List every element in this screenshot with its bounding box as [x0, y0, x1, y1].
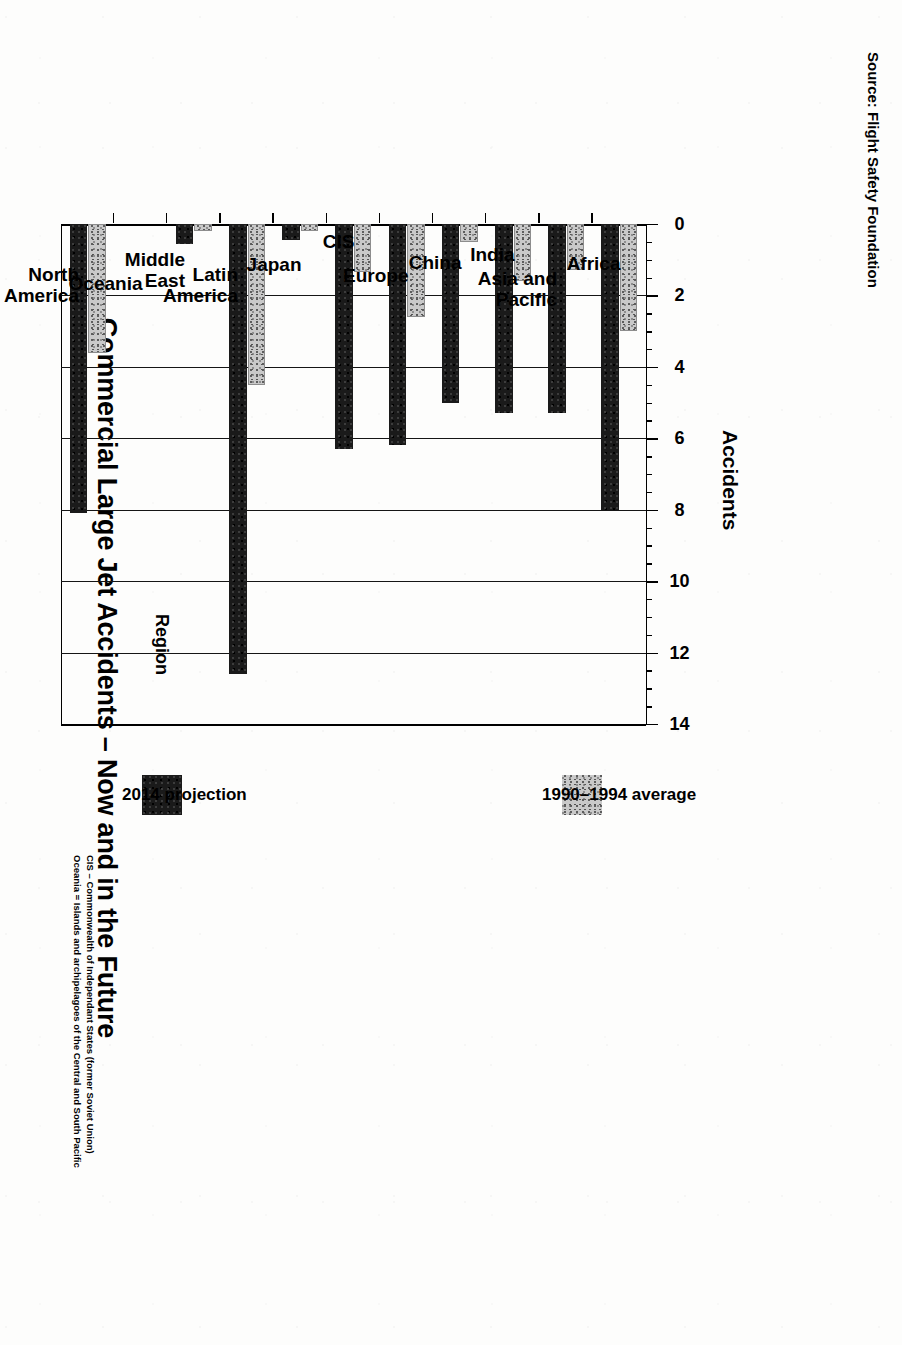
- category-separator-7: [272, 213, 273, 223]
- footnote-2: Oceania = Islands and archipelagoes of t…: [71, 855, 84, 1168]
- category-label-africa: Africa: [567, 253, 621, 274]
- axis-tick-6: [646, 438, 658, 439]
- axis-tick-11: [646, 617, 652, 618]
- axis-tick-5: [646, 403, 652, 404]
- gridline-14: [61, 724, 646, 726]
- axis-tick-9.5: [646, 563, 652, 564]
- axis-tick-label-8: 8: [666, 499, 694, 520]
- axis-tick-14: [646, 724, 658, 725]
- axis-tick-label-14: 14: [666, 714, 694, 735]
- bar-1990-1994-latin-america: [248, 224, 266, 385]
- category-separator-1: [591, 213, 592, 223]
- category-separator-10: [113, 213, 114, 223]
- axis-tick-13: [646, 688, 652, 689]
- gridline-8: [61, 510, 646, 511]
- category-separator-6: [326, 213, 327, 223]
- axis-tick-label-0: 0: [666, 214, 694, 235]
- footnote-block: CIS – Commonwealth of Independant States…: [71, 855, 97, 1168]
- category-label-asia-and-pacific: Asia andPacific: [478, 268, 557, 310]
- axis-tick-label-4: 4: [666, 356, 694, 377]
- axis-tick-10: [646, 581, 658, 582]
- axis-tick-4: [646, 367, 658, 368]
- bar-2014-japan: [282, 224, 300, 240]
- category-separator-9: [166, 213, 167, 223]
- category-separator-2: [538, 213, 539, 223]
- gridline-6: [61, 438, 646, 439]
- axis-tick-11.5: [646, 635, 652, 636]
- category-label-china: China: [409, 252, 462, 273]
- axis-tick-1: [646, 260, 652, 261]
- axis-tick-3.5: [646, 349, 652, 350]
- category-separator-3: [485, 213, 486, 223]
- bar-1990-1994-middle-east: [194, 224, 212, 231]
- axis-tick-2: [646, 295, 658, 296]
- bar-1990-1994-china: [460, 224, 478, 242]
- axis-tick-label-2: 2: [666, 285, 694, 306]
- axis-tick-5.5: [646, 420, 652, 421]
- legend-label-1: 1990–1994 average: [542, 785, 696, 805]
- category-separator-5: [379, 213, 380, 223]
- axis-tick-label-6: 6: [666, 428, 694, 449]
- value-axis-ruler: [646, 224, 658, 724]
- category-label-north-america: NorthAmerica: [4, 264, 79, 306]
- axis-tick-6.5: [646, 456, 652, 457]
- axis-tick-4.5: [646, 385, 652, 386]
- axis-tick-13.5: [646, 706, 652, 707]
- axis-tick-7.5: [646, 492, 652, 493]
- axis-tick-3: [646, 331, 652, 332]
- bar-2014-china: [442, 224, 460, 403]
- axis-tick-0: [646, 224, 658, 225]
- axis-tick-label-10: 10: [666, 571, 694, 592]
- category-label-oceania: Oceania: [68, 273, 142, 294]
- axis-tick-10.5: [646, 599, 652, 600]
- axis-tick-0.5: [646, 242, 652, 243]
- source-note: Source: Flight Safety Foundation: [865, 52, 882, 288]
- bar-2014-middle-east: [176, 224, 194, 244]
- bar-1990-1994-japan: [301, 224, 319, 231]
- gridline-10: [61, 581, 646, 582]
- axis-tick-2.5: [646, 313, 652, 314]
- category-separator-4: [432, 213, 433, 223]
- axis-tick-8: [646, 510, 658, 511]
- rotated-figure-canvas: Source: Flight Safety Foundation Commerc…: [0, 0, 902, 1345]
- axis-tick-9: [646, 545, 652, 546]
- axis-tick-12: [646, 653, 658, 654]
- category-label-cis: CIS: [323, 231, 355, 252]
- axis-tick-8.5: [646, 528, 652, 529]
- bar-2014-cis: [336, 224, 354, 449]
- axis-tick-12.5: [646, 670, 652, 671]
- axis-tick-label-12: 12: [666, 642, 694, 663]
- category-label-japan: Japan: [247, 254, 302, 275]
- plot-area: [61, 224, 646, 724]
- category-separator-8: [219, 213, 220, 223]
- bar-1990-1994-africa: [620, 224, 638, 331]
- bar-2014-asia-and-pacific: [548, 224, 566, 413]
- footnote-1: CIS – Commonwealth of Independant States…: [84, 855, 97, 1168]
- category-label-india: India: [470, 244, 514, 265]
- axis-tick-1.5: [646, 278, 652, 279]
- bar-2014-europe: [389, 224, 407, 445]
- value-axis-label: Accidents: [718, 430, 742, 530]
- legend-label-2: 2014 projection: [122, 785, 247, 805]
- axis-tick-7: [646, 474, 652, 475]
- category-label-europe: Europe: [343, 265, 408, 286]
- gridline-12: [61, 653, 646, 654]
